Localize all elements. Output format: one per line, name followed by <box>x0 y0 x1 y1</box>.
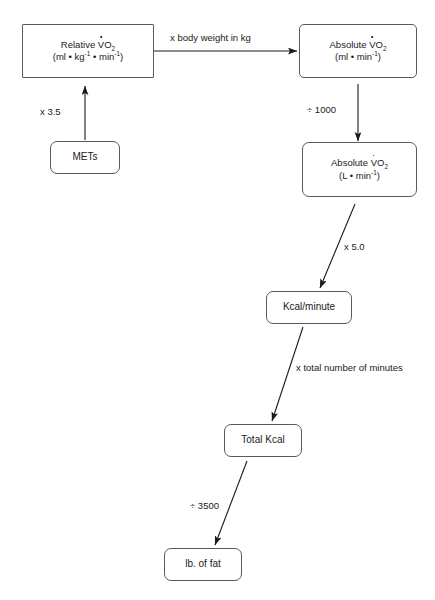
node-lb-of-fat-label: lb. of fat <box>185 558 221 571</box>
arrow-kcal-to-total-kcal <box>272 327 303 421</box>
node-kcal-per-minute[interactable]: Kcal/minute <box>266 291 352 324</box>
node-absolute-vo2-l-line2: (L • min-1) <box>339 170 380 182</box>
node-lb-of-fat[interactable]: lb. of fat <box>164 548 242 581</box>
node-mets[interactable]: METs <box>50 141 120 174</box>
node-total-kcal[interactable]: Total Kcal <box>224 424 302 457</box>
vo2-dot-absolute-ml: V <box>369 39 375 51</box>
edge-label-x-3-5: x 3.5 <box>40 106 61 117</box>
edge-label-body-weight: x body weight in kg <box>170 32 251 43</box>
edge-label-divide-1000: ÷ 1000 <box>307 104 336 115</box>
node-mets-label: METs <box>73 151 98 164</box>
vo2-dot-absolute-l: V <box>371 157 377 169</box>
node-absolute-vo2-l-line1: Absolute VO2 <box>331 157 388 169</box>
edge-label-total-minutes: x total number of minutes <box>296 362 403 373</box>
edge-label-x-5-0: x 5.0 <box>344 241 365 252</box>
vo2-dot-relative: V <box>98 39 104 51</box>
edge-label-divide-3500: ÷ 3500 <box>190 500 219 511</box>
arrow-total-kcal-to-lb-fat <box>215 461 247 545</box>
node-absolute-vo2-l[interactable]: Absolute VO2 (L • min-1) <box>302 142 417 197</box>
node-relative-vo2-line2: (ml • kg-1 • min-1) <box>53 51 123 63</box>
node-kcal-per-minute-label: Kcal/minute <box>283 301 335 314</box>
node-relative-vo2[interactable]: Relative VO2 (ml • kg-1 • min-1) <box>22 24 154 78</box>
flowchart-canvas: Relative VO2 (ml • kg-1 • min-1) Absolut… <box>0 0 435 600</box>
node-total-kcal-label: Total Kcal <box>241 434 284 447</box>
node-absolute-vo2-ml[interactable]: Absolute VO2 (ml • min-1) <box>299 24 417 78</box>
node-absolute-vo2-ml-line2: (ml • min-1) <box>335 51 381 63</box>
